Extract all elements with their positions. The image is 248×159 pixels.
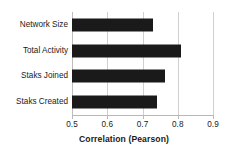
bar-row [72,89,213,115]
x-axis-title: Correlation (Pearson) [0,134,248,144]
bar-row [72,64,213,90]
x-axis-tick-label-0.7: 0.7 [128,119,158,130]
gridline-0.9 [213,12,214,115]
x-axis-tick-label-0.9: 0.9 [198,119,228,130]
x-axis-tick-label-0.8: 0.8 [163,119,193,130]
bar-staks-joined [72,70,165,83]
plot-area [72,12,213,115]
x-axis-tick-label-0.5: 0.5 [57,119,87,130]
y-axis-label-total-activity: Total Activity [2,46,68,56]
y-axis-label-staks-joined: Staks Joined [2,71,68,81]
x-axis-tick-label-0.6: 0.6 [92,119,122,130]
y-axis-label-staks-created: Staks Created [2,97,68,107]
bar-row [72,38,213,64]
bar-staks-created [72,96,157,109]
y-axis-category-labels: Network Size Total Activity Staks Joined… [0,12,68,115]
y-axis-label-network-size: Network Size [2,20,68,30]
bar-total-activity [72,44,181,57]
bar-row [72,12,213,38]
bar-chart: Network Size Total Activity Staks Joined… [0,0,248,159]
bar-network-size [72,18,153,31]
